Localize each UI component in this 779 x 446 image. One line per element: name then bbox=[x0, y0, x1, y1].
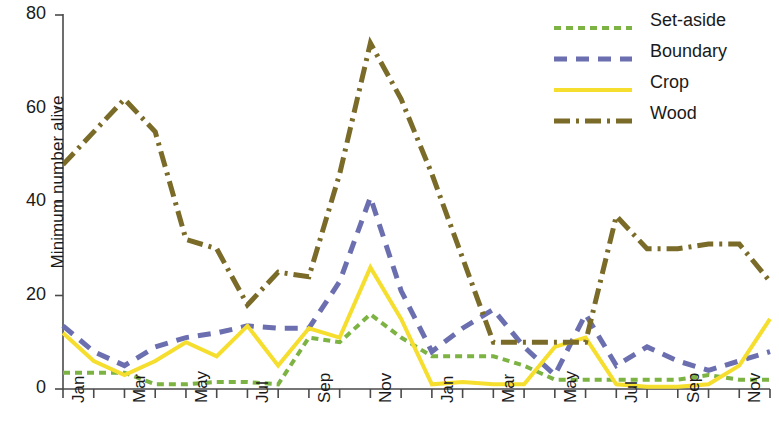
y-axis-tick-label: 80 bbox=[6, 3, 46, 24]
legend-label: Wood bbox=[650, 103, 697, 124]
x-axis-tick-label: May bbox=[192, 371, 212, 403]
series-line-crop bbox=[63, 267, 770, 386]
x-axis-tick-label: Mar bbox=[130, 374, 150, 403]
x-axis-tick-label: Jan bbox=[438, 376, 458, 403]
x-axis-tick-label: Sep bbox=[684, 373, 704, 403]
legend-item: Wood bbox=[554, 103, 779, 134]
x-axis-tick-label: Jan bbox=[69, 376, 89, 403]
legend-label: Crop bbox=[650, 72, 689, 93]
legend-item: Set-aside bbox=[554, 10, 779, 41]
legend-label: Set-aside bbox=[650, 10, 726, 31]
x-axis-tick-label: Jul bbox=[253, 381, 273, 403]
legend-item: Crop bbox=[554, 72, 779, 103]
x-axis-tick-label: May bbox=[561, 371, 581, 403]
y-axis-tick-label: 20 bbox=[6, 284, 46, 305]
x-axis-tick-label: Mar bbox=[499, 374, 519, 403]
x-axis-tick-label: Nov bbox=[376, 373, 396, 403]
x-axis-tick-label: Nov bbox=[745, 373, 765, 403]
y-axis-tick-label: 0 bbox=[6, 377, 46, 398]
legend-swatch-icon bbox=[554, 111, 632, 119]
legend-swatch-icon bbox=[554, 49, 632, 57]
y-axis-tick-label: 60 bbox=[6, 97, 46, 118]
x-axis-tick-label: Sep bbox=[315, 373, 335, 403]
legend-swatch-icon bbox=[554, 80, 632, 88]
legend-swatch-icon bbox=[554, 18, 632, 26]
chart-figure: Minimum number alive 020406080 JanMarMay… bbox=[0, 0, 779, 446]
x-axis-tick-label: Jul bbox=[622, 381, 642, 403]
y-axis-tick-label: 40 bbox=[6, 190, 46, 211]
legend-item: Boundary bbox=[554, 41, 779, 72]
legend-label: Boundary bbox=[650, 41, 727, 62]
y-axis-title: Minimum number alive bbox=[48, 32, 68, 332]
chart-legend: Set-asideBoundaryCropWood bbox=[554, 10, 779, 134]
